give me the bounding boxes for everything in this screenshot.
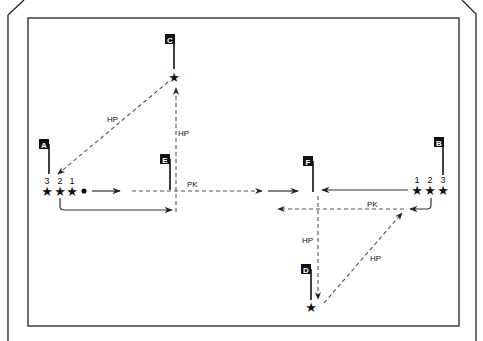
svg-text:C: C xyxy=(167,36,173,45)
label-hp-f-to-d: HP xyxy=(302,236,313,245)
svg-text:F: F xyxy=(306,158,311,167)
svg-text:A: A xyxy=(41,141,47,150)
pass-hp-d-to-b xyxy=(324,213,402,303)
player-star-icon: ★ xyxy=(424,183,436,198)
cone-c: C xyxy=(165,34,175,69)
player-c-star-icon: ★ xyxy=(168,70,180,85)
outer-frame xyxy=(8,0,476,341)
pass-hp-c-to-a xyxy=(58,82,168,174)
players-left: 3 2 1 ★ ★ ★ xyxy=(41,176,86,199)
cone-e: E xyxy=(160,154,170,190)
player-star-icon: ★ xyxy=(437,183,449,198)
label-pk-left: PK xyxy=(187,180,198,189)
label-hp-e-to-c: HP xyxy=(178,129,189,138)
players-right: 1 2 3 ★ ★ ★ xyxy=(411,175,449,198)
cone-b: B xyxy=(434,137,444,175)
run-arrow-right xyxy=(410,198,431,209)
ball-icon xyxy=(81,188,86,193)
svg-text:D: D xyxy=(303,266,309,275)
player-d-star-icon: ★ xyxy=(305,300,317,315)
player-star-icon: ★ xyxy=(54,184,66,199)
field-boundary xyxy=(28,18,459,326)
svg-text:E: E xyxy=(162,156,168,165)
player-star-icon: ★ xyxy=(66,184,78,199)
player-star-icon: ★ xyxy=(41,184,53,199)
svg-text:B: B xyxy=(436,139,442,148)
cone-d: D xyxy=(301,264,311,300)
label-pk-right: PK xyxy=(367,200,378,209)
drill-diagram: A B C E F D 3 2 1 ★ ★ ★ 1 xyxy=(0,0,483,341)
cone-a: A xyxy=(39,139,49,174)
cone-f: F xyxy=(303,156,313,192)
label-hp-c-to-a: HP xyxy=(107,115,118,124)
player-star-icon: ★ xyxy=(411,183,423,198)
label-hp-d-to-b: HP xyxy=(370,254,381,263)
run-arrow-left xyxy=(60,198,172,210)
